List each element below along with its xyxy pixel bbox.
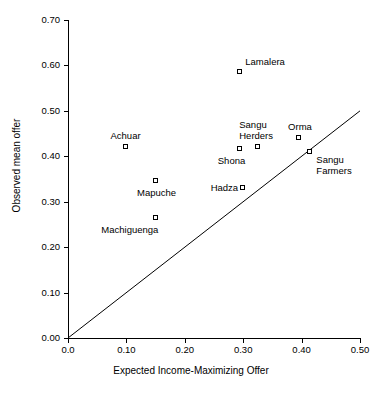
y-tick-label: 0.50: [26, 106, 60, 116]
x-tick-label: 0.0: [48, 345, 88, 355]
data-point-label: Machiguenga: [101, 224, 158, 235]
x-tick-label: 0.10: [106, 345, 146, 355]
data-point-marker: [296, 135, 301, 140]
data-point-marker: [237, 146, 242, 151]
scatter-plot-figure: 0.000.100.200.300.400.500.600.70 0.00.10…: [0, 0, 382, 395]
y-tick-mark: [64, 247, 68, 248]
data-point-label: Achuar: [111, 130, 141, 141]
y-axis-title: Observed mean offer: [11, 56, 22, 276]
y-tick-label: 0.60: [26, 60, 60, 70]
y-tick-mark: [64, 202, 68, 203]
x-tick-label: 0.50: [340, 345, 380, 355]
data-point-label: Orma: [288, 121, 312, 132]
data-point-label: Mapuche: [137, 187, 176, 198]
x-tick-mark: [185, 339, 186, 343]
x-tick-label: 0.20: [165, 345, 205, 355]
data-point-label: Sangu Herders: [239, 119, 273, 141]
x-tick-label: 0.40: [282, 345, 322, 355]
data-point-label: Hadza: [211, 182, 238, 193]
data-point-marker: [240, 185, 245, 190]
identity-reference-line: [68, 20, 360, 339]
data-point-marker: [123, 144, 128, 149]
y-tick-mark: [64, 111, 68, 112]
data-point-label: Lamalera: [245, 56, 285, 67]
data-point-marker: [237, 69, 242, 74]
data-point-marker: [307, 149, 312, 154]
y-tick-label: 0.40: [26, 151, 60, 161]
plot-area: 0.000.100.200.300.400.500.600.70 0.00.10…: [68, 20, 360, 338]
y-tick-label: 0.30: [26, 197, 60, 207]
y-tick-label: 0.20: [26, 242, 60, 252]
y-tick-label: 0.00: [26, 333, 60, 343]
data-point-marker: [255, 144, 260, 149]
x-tick-label: 0.30: [223, 345, 263, 355]
x-tick-mark: [302, 339, 303, 343]
data-point-marker: [153, 178, 158, 183]
y-tick-mark: [64, 20, 68, 21]
x-tick-mark: [68, 339, 69, 343]
x-tick-mark: [243, 339, 244, 343]
y-tick-label: 0.10: [26, 288, 60, 298]
data-point-marker: [153, 215, 158, 220]
y-tick-mark: [64, 293, 68, 294]
y-tick-label: 0.70: [26, 15, 60, 25]
x-tick-mark: [126, 339, 127, 343]
y-tick-mark: [64, 156, 68, 157]
x-tick-mark: [360, 339, 361, 343]
y-tick-mark: [64, 65, 68, 66]
data-point-label: Shona: [218, 155, 245, 166]
x-axis-title: Expected Income-Maximizing Offer: [0, 365, 382, 376]
data-point-label: Sangu Farmers: [316, 154, 351, 176]
